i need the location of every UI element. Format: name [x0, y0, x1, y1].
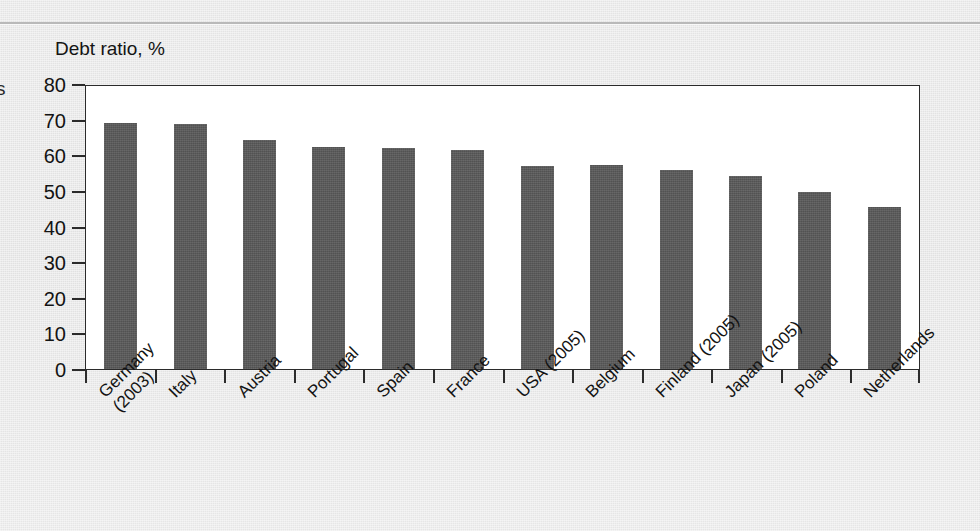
- y-axis-tick-mark: [72, 84, 85, 86]
- bar: [104, 123, 137, 369]
- y-axis-tick-mark: [72, 262, 85, 264]
- bar-cell: [364, 86, 433, 369]
- bar: [382, 148, 415, 369]
- bar-cell: [503, 86, 572, 369]
- y-axis-tick-mark: [72, 191, 85, 193]
- y-axis-tick-label: 0: [55, 358, 66, 382]
- bar-cell: [225, 86, 294, 369]
- bar-cell: [86, 86, 155, 369]
- bar-cell: [294, 86, 363, 369]
- bar: [451, 150, 484, 369]
- y-axis-tick-label: 40: [44, 216, 66, 240]
- bar: [312, 147, 345, 369]
- bar: [521, 166, 554, 369]
- x-axis-category-label: Italy: [165, 366, 201, 402]
- bar-cell: [155, 86, 224, 369]
- x-axis-labels: Germany(2003)ItalyAustriaPortugalSpainFr…: [85, 370, 920, 531]
- bar-cell: [433, 86, 502, 369]
- bar: [590, 165, 623, 369]
- bar: [243, 140, 276, 369]
- y-axis-tick-mark: [72, 120, 85, 122]
- bar: [868, 207, 901, 369]
- bar-chart-figure: Debt ratio, % 80706050403020100 Germany(…: [0, 0, 980, 531]
- bar-cell: [850, 86, 919, 369]
- bar: [174, 124, 207, 369]
- y-axis-tick-mark: [72, 298, 85, 300]
- y-axis-tick-label: 80: [44, 73, 66, 97]
- y-axis-tick-label: 30: [44, 251, 66, 275]
- bar: [729, 176, 762, 369]
- bar-cell: [572, 86, 641, 369]
- y-axis-tick-mark: [72, 333, 85, 335]
- bar: [798, 192, 831, 369]
- y-axis-tick-label: 60: [44, 144, 66, 168]
- y-axis-tick-label: 50: [44, 180, 66, 204]
- bar: [660, 170, 693, 369]
- y-axis-tick-label: 70: [44, 109, 66, 133]
- x-axis-category-label-line1: Italy: [165, 366, 200, 401]
- y-axis-tick-mark: [72, 227, 85, 229]
- chart-title: Debt ratio, %: [55, 38, 165, 60]
- bar-cell: [641, 86, 710, 369]
- y-axis-tick-label: 20: [44, 287, 66, 311]
- y-axis-tick-mark: [72, 155, 85, 157]
- y-axis-tick-label: 10: [44, 322, 66, 346]
- y-axis-tick-mark: [72, 369, 85, 371]
- y-axis: 80706050403020100: [0, 85, 85, 370]
